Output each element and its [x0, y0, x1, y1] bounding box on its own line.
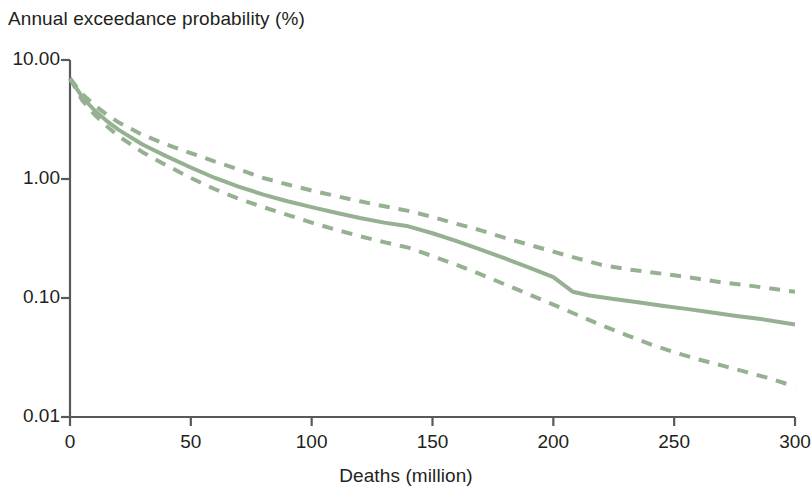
exceedance-probability-chart: Annual exceedance probability (%) 10.001…	[0, 0, 812, 500]
x-axis-title: Deaths (million)	[0, 465, 812, 487]
x-axis-tick-label: 50	[161, 431, 221, 453]
y-axis-tick-label: 0.10	[4, 286, 60, 308]
y-axis-tick-label: 1.00	[4, 167, 60, 189]
data-series-group	[70, 78, 795, 386]
x-axis-tick-label: 0	[40, 431, 100, 453]
series-line-central-estimate	[70, 78, 795, 324]
x-axis-tick-label: 250	[644, 431, 704, 453]
y-axis-ticks	[61, 60, 70, 417]
x-axis-tick-label: 150	[403, 431, 463, 453]
axis-lines	[70, 60, 795, 417]
y-axis-tick-label: 0.01	[4, 405, 60, 427]
x-axis-tick-label: 200	[523, 431, 583, 453]
x-axis-ticks	[70, 417, 795, 426]
series-line-upper-bound	[70, 78, 795, 291]
x-axis-tick-label: 300	[765, 431, 812, 453]
x-axis-tick-label: 100	[282, 431, 342, 453]
plot-area	[0, 0, 812, 500]
y-axis-tick-label: 10.00	[4, 48, 60, 70]
